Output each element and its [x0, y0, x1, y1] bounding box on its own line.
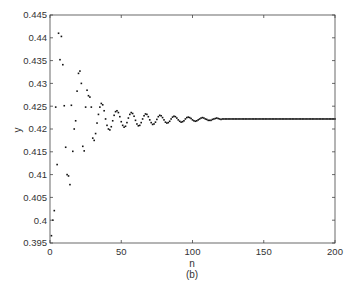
data-point: [65, 146, 67, 148]
data-point: [169, 120, 171, 122]
data-point: [193, 120, 195, 122]
data-point: [72, 151, 74, 153]
y-tick-label: 0.435: [23, 55, 47, 66]
x-tick-label: 200: [327, 246, 343, 257]
data-point: [66, 174, 68, 176]
data-point: [263, 118, 265, 120]
data-point: [153, 123, 155, 125]
data-point: [122, 125, 124, 127]
x-axis-label: n: [189, 258, 195, 269]
data-point: [321, 118, 323, 120]
scatter-chart: 0.3950.40.4050.410.4150.420.4250.430.435…: [0, 0, 357, 291]
x-tick-label: 100: [185, 246, 201, 257]
data-point: [71, 104, 73, 106]
data-point: [58, 32, 60, 34]
data-point: [53, 210, 55, 212]
data-point: [172, 116, 174, 118]
y-tick-label: 0.425: [23, 101, 47, 112]
data-point: [138, 125, 140, 127]
data-point: [115, 111, 117, 113]
data-point: [55, 106, 57, 108]
data-point: [249, 118, 251, 120]
data-point: [243, 118, 245, 120]
y-tick-label: 0.405: [23, 192, 47, 203]
data-point: [179, 120, 181, 122]
data-point: [256, 118, 258, 120]
subfigure-label: (b): [186, 269, 198, 280]
data-point: [176, 117, 178, 119]
data-point: [229, 118, 231, 120]
data-point: [309, 118, 311, 120]
data-point: [260, 118, 262, 120]
data-point: [220, 119, 222, 121]
data-point: [213, 118, 215, 120]
data-point: [239, 118, 241, 120]
data-point: [313, 118, 315, 120]
y-tick-label: 0.445: [23, 9, 47, 20]
data-point: [269, 118, 271, 120]
data-point: [88, 95, 90, 97]
data-point: [284, 118, 286, 120]
data-point: [120, 121, 122, 123]
data-point: [91, 106, 93, 108]
data-point: [262, 118, 264, 120]
data-point: [242, 118, 244, 120]
data-point: [136, 123, 138, 125]
data-point: [112, 120, 114, 122]
data-point: [296, 118, 298, 120]
data-point: [51, 235, 53, 237]
data-point: [142, 118, 144, 120]
data-point: [192, 119, 194, 121]
data-point: [62, 64, 64, 66]
data-point: [56, 164, 58, 166]
data-point: [110, 126, 112, 128]
data-point: [202, 117, 204, 119]
data-point: [156, 119, 158, 121]
data-point: [290, 118, 292, 120]
axes-frame: [50, 15, 335, 243]
data-point: [132, 113, 134, 115]
data-point: [133, 115, 135, 117]
data-point: [166, 122, 168, 124]
data-point: [320, 118, 322, 120]
data-point: [299, 118, 301, 120]
data-point: [150, 122, 152, 124]
data-point: [327, 118, 329, 120]
data-point: [106, 125, 108, 127]
data-point: [324, 118, 326, 120]
data-point: [108, 128, 110, 130]
data-point: [167, 122, 169, 124]
data-point: [217, 118, 219, 120]
y-tick-label: 0.415: [23, 146, 47, 157]
data-point: [306, 118, 308, 120]
data-point: [139, 125, 141, 127]
data-point: [206, 119, 208, 121]
data-point: [89, 96, 91, 98]
data-point: [93, 140, 95, 142]
data-point: [119, 116, 121, 118]
data-point: [281, 118, 283, 120]
data-point: [82, 146, 84, 148]
data-point: [237, 118, 239, 120]
plot-area: [51, 32, 336, 236]
data-point: [196, 120, 198, 122]
data-point: [300, 118, 302, 120]
data-point: [59, 59, 61, 61]
data-point: [190, 118, 192, 120]
data-point: [246, 118, 248, 120]
data-point: [294, 118, 296, 120]
data-point: [297, 118, 299, 120]
data-point: [303, 118, 305, 120]
data-point: [69, 184, 71, 186]
data-point: [329, 118, 331, 120]
data-point: [63, 105, 65, 107]
data-point: [205, 118, 207, 120]
data-point: [78, 73, 80, 75]
data-point: [130, 112, 132, 114]
data-point: [187, 116, 189, 118]
data-point: [209, 120, 211, 122]
data-point: [307, 118, 309, 120]
data-point: [223, 118, 225, 120]
data-point: [240, 118, 242, 120]
data-point: [128, 117, 130, 119]
